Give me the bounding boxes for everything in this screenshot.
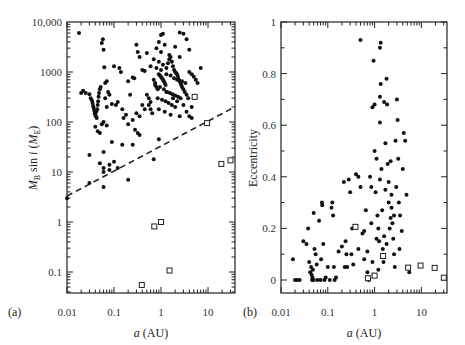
exoplanet-marker [140, 103, 144, 107]
exoplanet-marker [157, 137, 161, 141]
panel-a-ticks [67, 22, 235, 293]
exoplanet-marker [138, 114, 142, 118]
exoplanet-marker [349, 252, 353, 256]
exoplanet-marker [117, 66, 121, 70]
panel-b-xlabel: a (AU) [347, 326, 381, 340]
solar-system-planet-marker [167, 268, 172, 273]
exoplanet-marker [143, 107, 147, 111]
exoplanet-marker [77, 31, 81, 35]
exoplanet-marker [181, 103, 185, 107]
exoplanet-marker [95, 116, 99, 120]
exoplanet-marker [373, 149, 377, 153]
exoplanet-marker [319, 278, 323, 282]
exoplanet-marker [387, 201, 391, 205]
exoplanet-marker [181, 32, 185, 36]
exoplanet-marker [400, 229, 404, 233]
exoplanet-marker [383, 188, 387, 192]
figure: 0.010.11100.1110100100010,000 (a) a (AU)… [0, 0, 465, 345]
exoplanet-marker [330, 201, 334, 205]
exoplanet-marker [87, 92, 91, 96]
exoplanet-marker [387, 180, 391, 184]
exoplanet-marker [351, 263, 355, 267]
x-tick-label: 0.01 [57, 306, 76, 318]
exoplanet-marker [149, 100, 153, 104]
exoplanet-marker [131, 143, 135, 147]
exoplanet-marker [105, 79, 109, 83]
exoplanet-marker [388, 226, 392, 230]
panel-b-eccentricity-vs-semimajor-axis: 0.010.111000.20.40.60.81 (b) a (AU) Ecce… [243, 16, 447, 340]
exoplanet-marker [396, 157, 400, 161]
exoplanet-marker [96, 103, 100, 107]
exoplanet-marker [362, 257, 366, 261]
solar-system-planet-marker [381, 254, 386, 259]
exoplanet-marker [368, 175, 372, 179]
exoplanet-marker [126, 79, 130, 83]
exoplanet-marker [84, 91, 88, 95]
exoplanet-marker [391, 237, 395, 241]
exoplanet-marker [348, 190, 352, 194]
exoplanet-marker [170, 103, 174, 107]
exoplanet-marker [364, 208, 368, 212]
exoplanet-marker [150, 111, 154, 115]
exoplanet-marker [298, 278, 302, 282]
panel-b-tick-labels: 0.010.111000.20.40.60.81 [262, 16, 427, 318]
y-tick-label: 0.2 [262, 222, 276, 234]
exoplanet-marker [120, 143, 124, 147]
exoplanet-marker [393, 265, 397, 269]
exoplanet-marker [332, 265, 336, 269]
y-tick-label: 100 [46, 116, 63, 128]
exoplanet-marker [382, 234, 386, 238]
exoplanet-marker [356, 175, 360, 179]
exoplanet-marker [154, 66, 158, 70]
solar-system-planet-marker [406, 265, 411, 270]
exoplanet-marker [375, 237, 379, 241]
exoplanet-marker [167, 53, 171, 57]
exoplanet-marker [105, 105, 109, 109]
panel-a-frame [67, 22, 235, 293]
exoplanet-marker [380, 208, 384, 212]
exoplanet-marker [156, 96, 160, 100]
exoplanet-marker [378, 95, 382, 99]
y-tick-label: 0.6 [262, 119, 276, 131]
solar-system-planet-marker [365, 276, 370, 281]
exoplanet-marker [390, 193, 394, 197]
exoplanet-marker [187, 48, 191, 52]
exoplanet-marker [100, 41, 104, 45]
exoplanet-marker [178, 30, 182, 34]
exoplanet-marker [122, 116, 126, 120]
solar-system-planet-marker [152, 224, 157, 229]
exoplanet-marker [119, 70, 123, 74]
exoplanet-marker [116, 166, 120, 170]
exoplanet-marker [93, 125, 97, 129]
solar-system-planet-marker [139, 282, 144, 287]
panel-b-label: (b) [243, 305, 257, 319]
exoplanet-marker [102, 185, 106, 189]
exoplanet-marker [138, 55, 142, 59]
solar-system-planet-marker [205, 121, 210, 126]
exoplanet-marker [147, 96, 151, 100]
exoplanet-marker [359, 185, 363, 189]
y-tick-label: 0.1 [48, 266, 62, 278]
exoplanet-marker [382, 260, 386, 264]
exoplanet-marker [307, 260, 311, 264]
exoplanet-marker [369, 185, 373, 189]
exoplanet-marker [97, 95, 101, 99]
exoplanet-marker [185, 110, 189, 114]
exoplanet-marker [102, 120, 106, 124]
exoplanet-marker [402, 131, 406, 135]
exoplanet-marker [376, 268, 380, 272]
panel-a-mass-vs-semimajor-axis: 0.010.11100.1110100100010,000 (a) a (AU)… [8, 16, 235, 340]
exoplanet-marker [164, 90, 168, 94]
exoplanet-marker [128, 93, 132, 97]
exoplanet-marker [385, 103, 389, 107]
exoplanet-marker [394, 185, 398, 189]
exoplanet-marker [158, 85, 162, 89]
exoplanet-marker [317, 219, 321, 223]
exoplanet-marker [314, 252, 318, 256]
exoplanet-marker [173, 105, 177, 109]
exoplanet-marker [138, 133, 142, 137]
exoplanet-marker [389, 216, 393, 220]
exoplanet-marker [365, 250, 369, 254]
x-tick-label: 0.1 [107, 306, 121, 318]
exoplanet-marker [319, 257, 323, 261]
